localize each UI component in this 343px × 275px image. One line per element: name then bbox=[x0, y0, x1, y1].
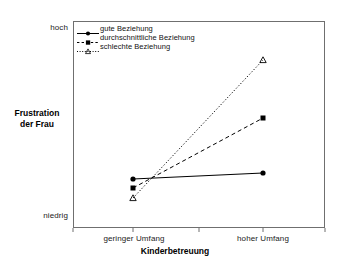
y-axis-tick-label-low: niedrig bbox=[28, 211, 68, 220]
legend-label: schlechte Beziehung bbox=[100, 42, 170, 51]
legend-key-solid-circle-icon bbox=[76, 24, 100, 33]
y-axis-title-line1: Frustration bbox=[15, 108, 60, 118]
x-axis-tick-label-low: geringer Umfang bbox=[96, 234, 172, 243]
legend-label: durchschnittliche Beziehung bbox=[100, 33, 195, 42]
legend-item-schlechte-beziehung[interactable]: schlechte Beziehung bbox=[76, 42, 208, 51]
legend-key-dotted-triangle-icon bbox=[76, 42, 100, 51]
legend-key-dashed-square-icon bbox=[76, 33, 100, 42]
legend: gute Beziehung durchschnittliche Beziehu… bbox=[76, 24, 208, 51]
legend-item-durchschnittliche-beziehung[interactable]: durchschnittliche Beziehung bbox=[76, 33, 208, 42]
chart-figure: hoch niedrig Frustration der Frau gering… bbox=[0, 0, 343, 275]
x-axis-title: Kinderbetreuung bbox=[110, 246, 240, 256]
y-axis-title-line2: der Frau bbox=[20, 119, 54, 129]
x-axis-tick-label-high: hoher Umfang bbox=[228, 234, 298, 243]
legend-label: gute Beziehung bbox=[100, 24, 153, 33]
legend-item-gute-beziehung[interactable]: gute Beziehung bbox=[76, 24, 208, 33]
y-axis-title: Frustration der Frau bbox=[6, 108, 68, 130]
x-axis-ticks bbox=[73, 228, 325, 232]
y-axis-tick-label-high: hoch bbox=[34, 23, 68, 32]
plot-area bbox=[73, 21, 325, 228]
